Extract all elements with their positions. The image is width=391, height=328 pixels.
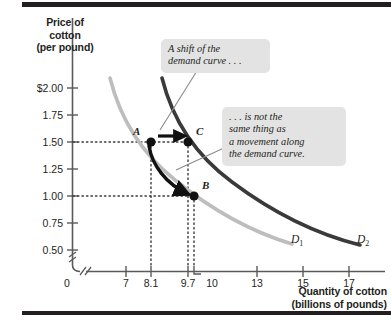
curve-label-d1: D1: [291, 233, 303, 248]
x-tick-label-97: 9.7: [175, 277, 201, 289]
y-tick-label-200: $2.00: [0, 82, 63, 94]
curve-label-d1-subscript: 1: [299, 239, 303, 248]
y-tick-label-050: 0.50: [0, 244, 63, 256]
x-tick-label-10: 10: [201, 277, 223, 289]
x-tick-label-15: 15: [292, 277, 314, 289]
y-tick-label-125: 1.25: [0, 163, 63, 175]
shift-callout: A shift of the demand curve . . .: [161, 39, 270, 73]
y-tick-label-075: 0.75: [0, 217, 63, 229]
movement-callout: . . . is not the same thing as a movemen…: [222, 107, 346, 166]
dotted-guide-lines: [73, 142, 194, 266]
y-tick-label-100: 1.00: [0, 190, 63, 202]
x-tick-label-81: 8.1: [138, 277, 164, 289]
data-point-b: [189, 191, 198, 200]
data-point-a: [146, 137, 155, 146]
point-label-b: B: [202, 179, 209, 191]
axis-corner-join: [73, 253, 81, 272]
curve-label-d2: D2: [357, 233, 369, 248]
x-tick-label-13: 13: [246, 277, 268, 289]
x-tick-label-17: 17: [338, 277, 360, 289]
y-axis-title: Price of cotton (per pound): [22, 16, 108, 54]
y-tick-label-175: 1.75: [0, 109, 63, 121]
point-label-c: C: [196, 125, 203, 137]
curve-label-d2-subscript: 2: [365, 239, 369, 248]
x-tick-10-bracket: [194, 266, 201, 274]
x-tick-label-0: 0: [56, 277, 78, 289]
demand-curve-figure: Price of cotton (per pound) Quantity of …: [0, 0, 391, 328]
x-tick-label-7: 7: [115, 277, 137, 289]
point-label-a: A: [133, 125, 140, 137]
data-point-c: [183, 137, 192, 146]
y-tick-label-150: 1.50: [0, 136, 63, 148]
